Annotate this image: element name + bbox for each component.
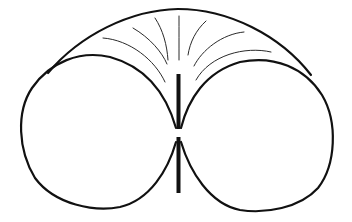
field-line (133, 28, 167, 64)
field-line (188, 21, 206, 55)
left-lobe (21, 55, 176, 208)
field-line (103, 38, 165, 82)
field-line (194, 32, 244, 66)
right-lobe (181, 60, 333, 211)
field-lines (103, 16, 271, 82)
radiation-pattern-diagram (0, 0, 352, 222)
diagram-svg (0, 0, 352, 222)
